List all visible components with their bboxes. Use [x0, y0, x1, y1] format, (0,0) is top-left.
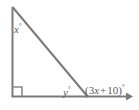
geometry-figure: x° y° (3x+10)° [0, 0, 139, 110]
expression-constant: 10 [107, 84, 118, 96]
right-angle-square-icon [13, 87, 22, 96]
angle-label-y: y° [63, 86, 71, 98]
angle-label-y-degree: ° [68, 85, 71, 92]
hypotenuse-line [13, 7, 89, 97]
angle-label-x-degree: ° [19, 22, 22, 29]
ray-arrowhead-icon [126, 93, 133, 101]
angle-label-expression: (3x+10)° [85, 84, 125, 96]
angle-label-x: x° [14, 23, 22, 35]
expression-degree: ° [122, 83, 125, 90]
